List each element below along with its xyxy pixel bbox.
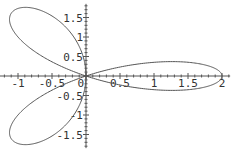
y-tick-label: 0.5 xyxy=(63,51,83,64)
y-tick-label: -0.5 xyxy=(57,90,84,103)
x-tick-label: -0.5 xyxy=(39,77,66,90)
tick-labels: -1-0.500.511.521.510.5-0.5-1-1.5 xyxy=(11,12,225,142)
x-tick-label: 1.5 xyxy=(178,77,198,90)
polar-rose-chart: -1-0.500.511.521.510.5-0.5-1-1.5 xyxy=(0,0,231,153)
axes xyxy=(0,4,230,148)
x-tick-label: 1 xyxy=(151,77,158,90)
x-tick-label: 2 xyxy=(219,77,226,90)
y-tick-label: 1.5 xyxy=(63,12,83,25)
x-tick-label: -1 xyxy=(11,77,24,90)
